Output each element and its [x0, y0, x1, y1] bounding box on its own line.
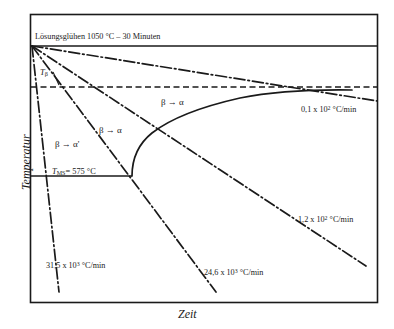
rate-1-2-mantissa: 1,2 — [298, 215, 308, 224]
rate-24-6-mantissa: 24,6 — [204, 268, 218, 277]
rate-0-1-unit: °C/min — [333, 105, 357, 114]
solution-anneal-label: Lösungsglühen 1050 °C – 30 Minuten — [35, 33, 160, 41]
t-beta-label: Tβ — [40, 68, 48, 78]
cooling-rate-label-31-5: 31,5 x 103 °C/min — [46, 262, 105, 271]
axis-label-zeit: Zeit — [178, 308, 197, 320]
diagram-canvas — [0, 0, 394, 329]
cooling-rate-label-1-2: 1,2 x 102 °C/min — [298, 216, 353, 225]
phase-label-beta-alpha-upper: β → α — [161, 98, 184, 107]
rate-24-6-unit: °C/min — [240, 268, 264, 277]
rate-1-2-base: 10 — [316, 215, 324, 224]
rate-24-6-base: 10 — [227, 268, 235, 277]
t-beta-subscript: β — [45, 70, 48, 77]
t-ms-label: TMS= 575 °C — [52, 168, 96, 176]
rate-24-6-times: x — [220, 268, 224, 277]
cooling-curve-0-1 — [32, 46, 377, 101]
rate-31-5-exponent: 3 — [77, 261, 80, 267]
cooling-curve-1-2 — [32, 46, 366, 266]
rate-0-1-times: x — [313, 105, 317, 114]
phase-label-beta-alpha-prime: β → α' — [55, 140, 79, 149]
rate-31-5-base: 10 — [69, 261, 77, 270]
rate-1-2-exponent: 2 — [325, 215, 328, 221]
rate-1-2-times: x — [310, 215, 314, 224]
rate-31-5-mantissa: 31,5 — [46, 261, 60, 270]
cooling-rate-label-24-6: 24,6 x 103 °C/min — [204, 269, 263, 278]
rate-31-5-times: x — [62, 261, 66, 270]
t-ms-value: = 575 °C — [65, 167, 95, 176]
t-beta-leader — [53, 72, 59, 85]
rate-0-1-exponent: 2 — [328, 105, 331, 111]
rate-24-6-exponent: 3 — [235, 268, 238, 274]
rate-0-1-mantissa: 0,1 — [301, 105, 311, 114]
cooling-rate-label-0-1: 0,1 x 102 °C/min — [301, 106, 356, 115]
phase-label-beta-alpha-middle: β → α — [99, 126, 122, 135]
rate-31-5-unit: °C/min — [82, 261, 106, 270]
cct-diagram-figure: Temperatur Zeit Lösungsglühen 1050 °C – … — [0, 0, 394, 329]
axis-label-temperatur: Temperatur — [20, 134, 32, 190]
rate-0-1-base: 10 — [319, 105, 327, 114]
rate-1-2-unit: °C/min — [330, 215, 354, 224]
